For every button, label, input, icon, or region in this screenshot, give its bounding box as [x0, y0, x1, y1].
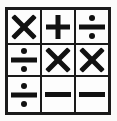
image-canvas — [0, 0, 117, 121]
operator-grid — [5, 7, 111, 115]
minus-icon — [45, 92, 71, 97]
plus-icon — [46, 15, 70, 39]
grid-cell-r1c3 — [76, 10, 108, 45]
grid-cell-r3c1 — [8, 77, 42, 112]
grid-cell-r2c2 — [42, 45, 76, 77]
grid-cell-r2c1 — [8, 45, 42, 77]
division-icon — [79, 15, 105, 39]
multiplication-icon — [45, 47, 71, 73]
grid-cell-r2c3 — [76, 45, 108, 77]
division-icon — [11, 48, 37, 72]
multiplication-icon — [11, 14, 37, 40]
division-icon — [11, 83, 37, 107]
grid-cell-r3c2 — [42, 77, 76, 112]
multiplication-icon — [79, 47, 105, 73]
grid-cell-r3c3 — [76, 77, 108, 112]
grid-cell-r1c1 — [8, 10, 42, 45]
minus-icon — [79, 92, 105, 97]
grid-cell-r1c2 — [42, 10, 76, 45]
